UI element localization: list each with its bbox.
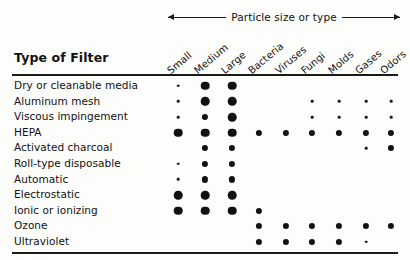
matrix-cell: [274, 140, 298, 156]
rating-dot-sm: [365, 241, 368, 244]
matrix-cell: [379, 172, 403, 188]
rating-dot-lg: [228, 191, 237, 200]
row-label-7: Electrostatic: [14, 187, 80, 203]
matrix-cell: [379, 203, 403, 219]
rating-dot-md: [229, 161, 235, 167]
rating-dot-lg: [228, 113, 237, 122]
rating-dot-sm: [365, 116, 368, 119]
matrix-cell: [327, 187, 351, 203]
row-label-1: Aluminum mesh: [14, 94, 100, 110]
header-divider: [12, 74, 398, 76]
matrix-cell: [193, 94, 217, 110]
matrix-cell: [247, 78, 271, 94]
row-label-8: Ionic or ionizing: [14, 203, 98, 219]
rating-dot-sm: [390, 116, 393, 119]
matrix-cell: [327, 218, 351, 234]
matrix-cell: [166, 125, 190, 141]
table-row: HEPA: [0, 125, 410, 141]
column-header-gases: Gases: [353, 48, 384, 76]
rating-dot-md: [283, 130, 289, 136]
table-row: Roll-type disposable: [0, 156, 410, 172]
table-row: Aluminum mesh: [0, 94, 410, 110]
matrix-cell: [300, 78, 324, 94]
matrix-cell: [193, 140, 217, 156]
matrix-cell: [220, 187, 244, 203]
matrix-cell: [300, 234, 324, 250]
matrix-cell: [379, 125, 403, 141]
rating-dot-sm: [177, 100, 180, 103]
matrix-cell: [193, 172, 217, 188]
rating-dot-md: [388, 223, 394, 229]
column-header-small: Small: [165, 49, 194, 76]
table-row: Ultraviolet: [0, 234, 410, 250]
rating-dot-lg: [201, 97, 210, 106]
row-label-10: Ultraviolet: [14, 234, 69, 250]
matrix-cell: [354, 234, 378, 250]
matrix-cell: [247, 140, 271, 156]
rating-dot-md: [336, 239, 342, 245]
matrix-cell: [193, 78, 217, 94]
rating-dot-md: [202, 145, 208, 151]
matrix-cell: [300, 218, 324, 234]
rating-dot-lg: [201, 191, 210, 200]
rating-dot-md: [388, 130, 394, 136]
matrix-cell: [274, 172, 298, 188]
rating-dot-lg: [174, 128, 183, 137]
row-label-6: Automatic: [14, 172, 68, 188]
rating-dot-sm: [338, 116, 341, 119]
matrix-cell: [247, 172, 271, 188]
matrix-cell: [274, 187, 298, 203]
matrix-cell: [193, 187, 217, 203]
row-label-4: Activated charcoal: [14, 140, 112, 156]
rating-dot-lg: [174, 191, 183, 200]
matrix-cell: [379, 140, 403, 156]
rating-dot-sm: [311, 116, 314, 119]
matrix-cell: [354, 109, 378, 125]
matrix-cell: [220, 78, 244, 94]
rating-dot-sm: [390, 100, 393, 103]
matrix-cell: [220, 234, 244, 250]
matrix-cell: [379, 156, 403, 172]
arrow-left-icon: [168, 17, 226, 18]
filter-comparison-table: Particle size or type Type of Filter Sma…: [0, 0, 410, 260]
matrix-cell: [247, 234, 271, 250]
matrix-cell: [166, 218, 190, 234]
rating-dot-lg: [174, 206, 183, 215]
rating-dot-md: [309, 130, 315, 136]
rating-dot-sm: [365, 147, 368, 150]
matrix-cell: [300, 203, 324, 219]
matrix-cell: [247, 109, 271, 125]
matrix-cell: [274, 203, 298, 219]
row-label-2: Viscous impingement: [14, 109, 128, 125]
matrix-cell: [327, 172, 351, 188]
arrow-right-icon: [342, 17, 400, 18]
table-row: Automatic: [0, 172, 410, 188]
rating-dot-md: [256, 239, 262, 245]
column-header-group: SmallMediumLargeBacteriaVirusesFungiMold…: [0, 24, 410, 76]
rating-dot-md: [283, 223, 289, 229]
matrix-cell: [379, 109, 403, 125]
rating-dot-lg: [228, 206, 237, 215]
matrix-cell: [354, 203, 378, 219]
rating-dot-md: [388, 145, 394, 151]
rating-dot-md: [363, 130, 369, 136]
matrix-cell: [166, 203, 190, 219]
matrix-cell: [354, 187, 378, 203]
matrix-cell: [327, 203, 351, 219]
rating-dot-md: [336, 223, 342, 229]
matrix-cell: [300, 187, 324, 203]
matrix-cell: [220, 94, 244, 110]
rating-dot-sm: [311, 100, 314, 103]
matrix-cell: [166, 109, 190, 125]
matrix-cell: [220, 172, 244, 188]
matrix-cell: [300, 140, 324, 156]
rating-dot-sm: [177, 85, 180, 88]
matrix-cell: [220, 140, 244, 156]
matrix-cell: [166, 140, 190, 156]
matrix-cell: [300, 172, 324, 188]
matrix-cell: [247, 218, 271, 234]
table-row: Ionic or ionizing: [0, 203, 410, 219]
matrix-cell: [193, 125, 217, 141]
matrix-cell: [193, 218, 217, 234]
rating-dot-sm: [365, 100, 368, 103]
